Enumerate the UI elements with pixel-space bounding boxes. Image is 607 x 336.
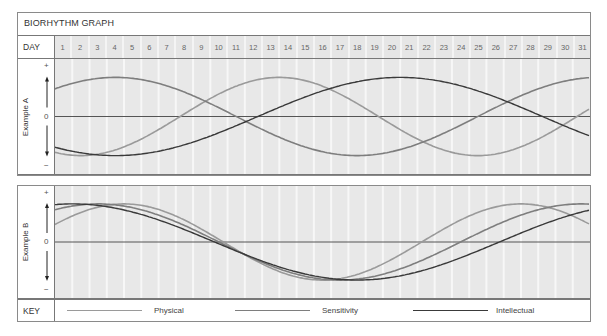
- day-header-1: 1: [55, 36, 72, 58]
- day-header-10: 10: [211, 36, 228, 58]
- day-header-25: 25: [471, 36, 488, 58]
- day-header-2: 2: [72, 36, 89, 58]
- day-header-20: 20: [384, 36, 401, 58]
- day-header-23: 23: [436, 36, 453, 58]
- example-a-row: Example A +0−: [18, 59, 590, 175]
- day-label-cell: DAY: [18, 36, 55, 58]
- key-row: KEY Physical Sensitivity Intellectual: [18, 299, 590, 321]
- legend-item-physical: Physical: [67, 300, 184, 321]
- legend-label-physical: Physical: [154, 306, 184, 315]
- day-header-5: 5: [124, 36, 141, 58]
- day-header-18: 18: [350, 36, 367, 58]
- day-header-15: 15: [298, 36, 315, 58]
- example-b-label-cell: Example B +0−: [18, 186, 55, 298]
- day-header-31: 31: [575, 36, 590, 58]
- day-header-30: 30: [558, 36, 575, 58]
- legend-label-sensitivity: Sensitivity: [322, 306, 358, 315]
- day-header-6: 6: [142, 36, 159, 58]
- sensitivity-line-swatch: [235, 310, 310, 312]
- section-gap: [17, 175, 591, 185]
- day-header-13: 13: [263, 36, 280, 58]
- day-header-26: 26: [488, 36, 505, 58]
- day-header-27: 27: [506, 36, 523, 58]
- example-a-label-cell: Example A +0−: [18, 59, 55, 174]
- physical-line-swatch: [67, 310, 142, 312]
- day-header-4: 4: [107, 36, 124, 58]
- day-header-19: 19: [367, 36, 384, 58]
- day-header-8: 8: [176, 36, 193, 58]
- day-row: DAY 123456789101112131415161718192021222…: [18, 36, 590, 59]
- intellectual-line-swatch: [413, 310, 488, 311]
- day-header-22: 22: [419, 36, 436, 58]
- day-header-12: 12: [246, 36, 263, 58]
- day-label: DAY: [23, 42, 40, 52]
- key-label-cell: KEY: [18, 300, 55, 321]
- example-b-plot: [55, 186, 590, 298]
- day-header-7: 7: [159, 36, 176, 58]
- day-header-17: 17: [332, 36, 349, 58]
- title-row: BIORHYTHM GRAPH: [18, 13, 590, 36]
- scale-arrows-icon: [42, 59, 52, 174]
- plot-svg: [55, 59, 590, 174]
- example-b-row: Example B +0−: [18, 185, 590, 299]
- day-header-29: 29: [540, 36, 557, 58]
- day-header-28: 28: [523, 36, 540, 58]
- day-header-21: 21: [402, 36, 419, 58]
- graph-title: BIORHYTHM GRAPH: [24, 18, 114, 28]
- biorhythm-graph: BIORHYTHM GRAPH DAY 12345678910111213141…: [17, 12, 591, 322]
- day-header-11: 11: [228, 36, 245, 58]
- legend-item-intellectual: Intellectual: [413, 300, 534, 321]
- plot-svg: [55, 186, 590, 298]
- day-header-9: 9: [194, 36, 211, 58]
- legend-label-intellectual: Intellectual: [496, 306, 534, 315]
- day-axis: 1234567891011121314151617181920212223242…: [55, 36, 590, 58]
- example-a-plot: [55, 59, 590, 174]
- key-label: KEY: [23, 306, 40, 316]
- day-header-3: 3: [90, 36, 107, 58]
- legend: Physical Sensitivity Intellectual: [55, 300, 590, 321]
- legend-item-sensitivity: Sensitivity: [235, 300, 358, 321]
- scale-arrows-icon: [42, 186, 52, 298]
- day-header-24: 24: [454, 36, 471, 58]
- day-header-16: 16: [315, 36, 332, 58]
- day-header-14: 14: [280, 36, 297, 58]
